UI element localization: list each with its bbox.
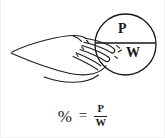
hand-wrist-lower-contour [11,53,70,74]
percent-formula: % = P W [0,98,165,134]
knuckle-crease-2 [82,47,84,50]
pointing-tick-1 [117,46,120,49]
hand-palm-lower-contour [70,66,106,75]
hand-heel-contour [44,75,99,82]
hand-top-contour [12,36,86,53]
equals-symbol: = [79,108,87,124]
fraction-denominator: W [94,117,107,129]
fraction-numerator: P [96,104,104,116]
figure-canvas: P W % = P W [0,0,165,138]
pointing-tick-3 [115,56,118,58]
middle-finger-underside [80,50,106,62]
percent-symbol: % [58,108,72,125]
thumb-contour [73,36,82,42]
percent-circle-bottom-letter: W [126,46,140,60]
index-finger-tip [112,48,115,53]
fraction-p-over-w: P W [94,104,107,129]
ring-finger-underside [73,57,98,70]
percent-circle-top-letter: P [118,22,127,36]
pointing-tick-2 [118,50,121,52]
middle-finger-tip [106,57,110,61]
knuckle-crease-3 [76,54,78,56]
